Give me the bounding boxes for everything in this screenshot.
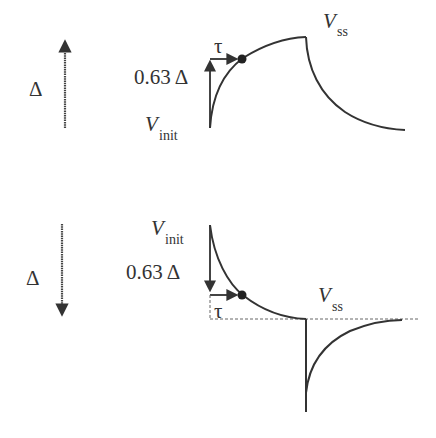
- recovery-curve: [306, 320, 402, 393]
- decay-curve-top: [306, 37, 405, 130]
- top-panel: Δ 0.63 Δ V init τ V ss: [29, 9, 405, 143]
- delta-label-top: Δ: [29, 77, 43, 101]
- fraction-label-top: 0.63 Δ: [134, 65, 188, 89]
- delta-label-bottom: Δ: [26, 266, 40, 290]
- tau-label-top: τ: [214, 34, 222, 58]
- fraction-label-bottom: 0.63 Δ: [126, 260, 180, 284]
- falling-curve: [210, 225, 306, 319]
- v-init-subscript-bottom: init: [165, 232, 184, 247]
- bottom-panel: Δ V init 0.63 Δ τ V ss: [26, 216, 420, 412]
- tau-point-top: [238, 55, 247, 64]
- v-init-symbol-top: V: [145, 112, 160, 136]
- v-init-symbol-bottom: V: [151, 216, 166, 240]
- tau-point-bottom: [238, 291, 247, 300]
- relaxation-diagram: Δ 0.63 Δ V init τ V ss Δ V init 0.63 Δ: [0, 0, 436, 438]
- v-init-subscript-top: init: [159, 128, 178, 143]
- v-ss-subscript-bottom: ss: [332, 299, 343, 314]
- v-ss-symbol-top: V: [323, 9, 338, 33]
- rising-curve: [210, 37, 306, 128]
- v-ss-subscript-top: ss: [337, 24, 348, 39]
- v-ss-symbol-bottom: V: [318, 283, 333, 307]
